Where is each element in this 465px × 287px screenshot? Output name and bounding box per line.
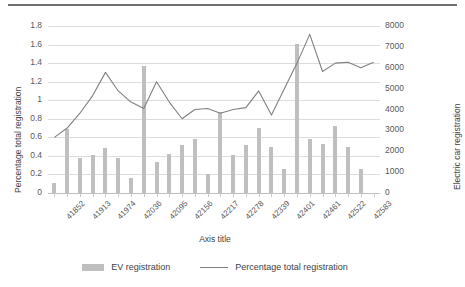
y-axis-secondary-tick-label: 3000: [385, 124, 419, 134]
y-axis-secondary-tick-label: 4000: [385, 104, 419, 114]
y-axis-secondary-tick-label: 7000: [385, 41, 419, 51]
y-axis-primary-tick-label: 1.2: [8, 76, 42, 86]
x-axis-tick: [220, 193, 221, 197]
x-axis-tick: [259, 193, 260, 197]
y-axis-primary-tick-label: 0.8: [8, 113, 42, 123]
y-axis-secondary-title: Electric car registration: [452, 104, 462, 190]
y-axis-primary-tick-label: 1: [8, 94, 42, 104]
y-axis-secondary-tick-label: 1000: [385, 166, 419, 176]
x-axis-tick-label: 42278: [244, 199, 266, 221]
plot-area: [48, 26, 380, 193]
x-axis-tick: [118, 193, 119, 197]
x-axis-tick-label: 42401: [295, 199, 317, 221]
x-axis-tick: [348, 193, 349, 197]
x-axis-tick: [169, 193, 170, 197]
legend-bar-swatch-icon: [82, 264, 104, 271]
x-axis-tick-label: 41852: [65, 199, 87, 221]
y-axis-primary-tick-label: 0.4: [8, 150, 42, 160]
legend-label-percentage-total-registration: Percentage total registration: [235, 262, 348, 272]
x-axis-tick: [246, 193, 247, 197]
x-axis-tick: [157, 193, 158, 197]
x-axis-tick: [323, 193, 324, 197]
x-axis-tick-label: 42095: [167, 199, 189, 221]
y-axis-primary-tick-label: 1.4: [8, 57, 42, 67]
x-axis-tick-label: 41913: [90, 199, 112, 221]
x-axis-title: Axis title: [0, 234, 430, 244]
x-axis-tick: [335, 193, 336, 197]
line-series-percentage-total-registration: [48, 26, 380, 193]
x-axis-tick: [67, 193, 68, 197]
x-axis-tick: [182, 193, 183, 197]
x-axis-tick: [297, 193, 298, 197]
x-axis-tick: [80, 193, 81, 197]
legend-line-swatch-icon: [200, 267, 228, 268]
legend-label-ev-registration: EV registration: [111, 262, 170, 272]
x-axis-baseline: [48, 193, 380, 194]
x-axis-tick: [361, 193, 362, 197]
x-axis-tick: [271, 193, 272, 197]
x-axis-tick: [93, 193, 94, 197]
x-axis-tick: [310, 193, 311, 197]
y-axis-secondary-tick-label: 2000: [385, 145, 419, 155]
x-axis-tick-label: 42156: [193, 199, 215, 221]
x-axis-tick-label: 42036: [142, 199, 164, 221]
legend-item-ev-registration[interactable]: EV registration: [82, 262, 170, 272]
chart-figure: Percentage total registration Electric c…: [0, 10, 465, 287]
x-axis-tick-label: 42339: [269, 199, 291, 221]
x-axis-tick: [131, 193, 132, 197]
y-axis-secondary-tick-label: 8000: [385, 20, 419, 30]
x-axis-tick-label: 42461: [320, 199, 342, 221]
y-axis-primary-tick-label: 1.8: [8, 20, 42, 30]
x-axis-tick: [105, 193, 106, 197]
x-axis-tick: [144, 193, 145, 197]
y-axis-primary-tick-label: 0: [8, 187, 42, 197]
x-axis-tick: [208, 193, 209, 197]
x-axis-tick-label: 42217: [218, 199, 240, 221]
y-axis-primary-tick-label: 0.6: [8, 131, 42, 141]
y-axis-primary-tick-label: 1.6: [8, 39, 42, 49]
x-axis-tick: [233, 193, 234, 197]
y-axis-primary-tick-label: 0.2: [8, 168, 42, 178]
x-axis-tick: [195, 193, 196, 197]
top-divider-rule: [8, 4, 457, 6]
chart-legend: EV registration Percentage total registr…: [0, 262, 430, 272]
y-axis-secondary-tick-label: 5000: [385, 83, 419, 93]
x-axis-tick-label: 41974: [116, 199, 138, 221]
x-axis-tick-label: 42583: [371, 199, 393, 221]
x-axis-tick-label: 42522: [346, 199, 368, 221]
y-axis-secondary-tick-label: 0: [385, 187, 419, 197]
x-axis-tick: [284, 193, 285, 197]
y-axis-secondary-tick-label: 6000: [385, 62, 419, 72]
x-axis-tick: [374, 193, 375, 197]
legend-item-percentage-total-registration[interactable]: Percentage total registration: [200, 262, 348, 272]
x-axis-tick: [54, 193, 55, 197]
